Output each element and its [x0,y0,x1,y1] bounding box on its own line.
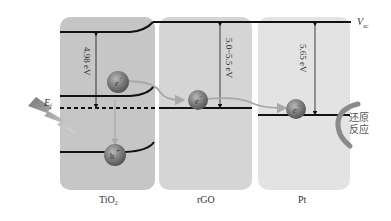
pt-electron-sign: - [298,102,300,108]
tio2-gap-label: 4.98 eV [82,47,92,76]
panel-label-pt: Pt [298,194,307,205]
rgo-electron-label: e [195,97,199,106]
reduction-reaction-label-line2: 反应 [349,123,369,135]
rgo-gap-label: 5.0~5.5 eV [224,38,234,79]
rgo-electron: e - [188,90,208,110]
tio2-hole-sign: + [116,147,120,155]
panel-label-tio2: TiO2 [99,194,118,206]
band-diagram: 4.98 eV 5.0~5.5 eV 5.65 eV e - h + e - e… [0,0,391,221]
tio2-hole: h + [104,144,126,166]
tio2-electron-label: e [115,79,119,88]
tio2-electron-sign: - [120,75,122,81]
panel-tio2 [60,17,155,190]
rgo-electron-sign: - [200,93,202,99]
fermi-label: Ef [43,97,53,109]
reduction-reaction-label-line1: 还原 [349,112,369,123]
tio2-electron: e - [107,71,129,93]
vacuum-level-label: Vac [357,16,369,29]
pt-electron-label: e [293,106,297,115]
pt-electron: e - [286,99,306,119]
panel-label-rgo: rGO [197,194,215,205]
pt-gap-label: 5.65 eV [298,44,308,73]
tio2-hole-label: h [110,152,114,161]
